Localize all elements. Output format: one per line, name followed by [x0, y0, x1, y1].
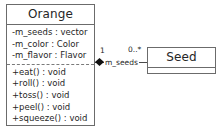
operation-row: +toss() : void: [7, 90, 94, 102]
composition-diamond-icon: [95, 58, 104, 66]
class-name-orange: Orange: [7, 5, 94, 24]
attribute-row: -m_seeds : vector: [7, 27, 94, 39]
operation-row: +peel() : void: [7, 102, 94, 114]
association-role-label: m_seeds: [104, 58, 139, 67]
operations-compartment-orange: +eat() : void +roll() : void +toss() : v…: [7, 64, 94, 127]
attributes-compartment-orange: -m_seeds : vector -m_color : Color -m_fl…: [7, 24, 94, 64]
operation-row: +roll() : void: [7, 78, 94, 90]
attributes-compartment-seed: [148, 67, 215, 77]
target-multiplicity-label: 0..*: [127, 45, 142, 54]
class-box-seed[interactable]: Seed: [147, 47, 216, 74]
operation-row: +eat() : void: [7, 67, 94, 79]
operation-row: +squeeze() : void: [7, 113, 94, 125]
uml-class-diagram-canvas: Orange -m_seeds : vector -m_color : Colo…: [0, 0, 221, 131]
class-box-orange[interactable]: Orange -m_seeds : vector -m_color : Colo…: [6, 4, 95, 126]
class-name-seed: Seed: [148, 48, 215, 67]
attribute-row: -m_flavor : Flavor: [7, 50, 94, 62]
attribute-row: -m_color : Color: [7, 39, 94, 51]
source-multiplicity-label: 1: [99, 46, 106, 55]
